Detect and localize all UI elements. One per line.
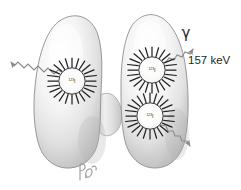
thyroid-gland [34, 15, 189, 168]
right-lobe-lower-source: 123I [126, 93, 175, 139]
left-lobe-source: 123I [48, 58, 97, 104]
right-lobe-upper-source-element: I [154, 67, 155, 73]
gamma-symbol-label: γ [182, 24, 191, 42]
thyroid-gamma-emission-figure: 123I [0, 0, 241, 190]
right-lobe-lower-source-element: I [152, 113, 153, 119]
artist-signature [80, 164, 96, 180]
left-lobe-shadow [78, 116, 106, 164]
energy-label: 157 keV [188, 54, 231, 66]
left-lobe-source-element: I [74, 78, 75, 84]
figure-canvas: 123I [0, 0, 241, 190]
right-lobe-upper-source: 123I [128, 47, 177, 93]
